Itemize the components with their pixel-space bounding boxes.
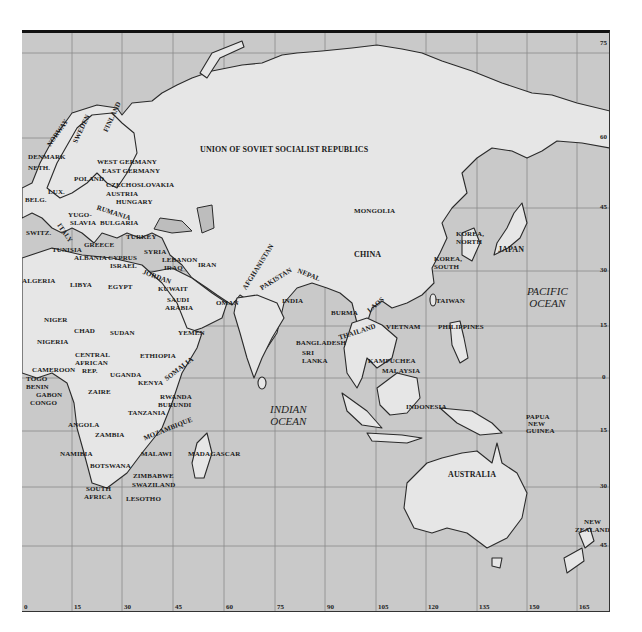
label-austria: AUSTRIA [106, 190, 138, 198]
lat-label-60n: 60 [600, 133, 607, 141]
label-madagascar: MADAGASCAR [188, 450, 240, 458]
label-tanzania: TANZANIA [128, 409, 166, 417]
label-car-3: REP. [82, 367, 98, 375]
lat-label-75n: 75 [600, 39, 607, 47]
label-poland: POLAND [74, 175, 104, 183]
lon-label-105: 105 [378, 603, 389, 611]
label-niger: NIGER [44, 316, 67, 324]
label-swaziland: SWAZILAND [132, 481, 175, 489]
label-australia: AUSTRALIA [448, 471, 496, 479]
label-uganda: UGANDA [110, 371, 141, 379]
lon-label-15: 15 [74, 603, 81, 611]
label-algeria: ALGERIA [22, 277, 55, 285]
label-egypt: EGYPT [108, 283, 133, 291]
label-lux: LUX. [48, 188, 65, 196]
lat-label-45n: 45 [600, 203, 607, 211]
label-nigeria: NIGERIA [37, 338, 68, 346]
label-congo: CONGO [30, 399, 57, 407]
label-bangladesh: BANGLADESH [296, 339, 346, 347]
label-burma: BURMA [331, 309, 358, 317]
label-iran: IRAN [198, 261, 216, 269]
label-syria: SYRIA [144, 248, 166, 256]
label-south-africa-2: AFRICA [84, 493, 112, 501]
label-yugoslavia-1: YUGO- [68, 211, 92, 219]
label-belg: BELG. [25, 196, 47, 204]
map-frame: 75 60 45 30 15 0 15 30 45 0 15 30 45 60 … [22, 30, 610, 612]
label-indonesia: INDONESIA [406, 403, 447, 411]
label-oman: OMAN [216, 299, 239, 307]
label-bulgaria: BULGARIA [100, 219, 139, 227]
lon-label-60: 60 [226, 603, 233, 611]
label-botswana: BOTSWANA [90, 462, 131, 470]
label-sri-lanka-2: LANKA [302, 357, 328, 365]
label-angola: ANGOLA [68, 421, 99, 429]
label-neth: NETH. [28, 164, 50, 172]
lat-label-15s: 15 [600, 426, 607, 434]
label-namibia: NAMIBIA [60, 450, 93, 458]
label-korea-south-1: KOREA, [434, 255, 462, 263]
label-korea-south-2: SOUTH [434, 263, 459, 271]
label-png-3: GUINEA [526, 427, 555, 435]
label-car-1: CENTRAL [75, 351, 110, 359]
label-yemen: YEMEN [178, 329, 205, 337]
lon-label-0: 0 [24, 603, 28, 611]
label-east-germany: EAST GERMANY [102, 167, 160, 175]
label-togo: TOGO [26, 375, 47, 383]
label-south-africa-1: SOUTH [86, 485, 111, 493]
label-cyprus: CYPRUS [108, 254, 137, 262]
label-lesotho: LESOTHO [126, 495, 161, 503]
lon-label-90: 90 [327, 603, 334, 611]
label-korea-north-2: NORTH [456, 238, 482, 246]
label-taiwan: TAIWAN [436, 297, 465, 305]
label-zimbabwe: ZIMBABWE [133, 472, 174, 480]
label-saudi-2: ARABIA [165, 304, 193, 312]
label-israel: ISRAEL [110, 262, 137, 270]
label-switz: SWITZ. [26, 229, 51, 237]
lat-label-30n: 30 [600, 266, 607, 274]
label-korea-north-1: KOREA, [456, 230, 484, 238]
label-sudan: SUDAN [110, 329, 135, 337]
label-kampuchea: KAMPUCHEA [368, 357, 416, 365]
label-greece: GREECE [84, 241, 114, 249]
label-lebanon: LEBANON [162, 256, 197, 264]
label-czechoslovakia: CZECHOSLOVAKIA [106, 181, 174, 189]
label-philippines: PHILIPPINES [438, 323, 484, 331]
label-hungary: HUNGARY [116, 198, 153, 206]
label-tunisia: TUNISIA [52, 246, 82, 254]
indian-ocean-label: INDIAN OCEAN [270, 403, 307, 427]
label-sri-lanka-1: SRI [302, 349, 314, 357]
label-yugoslavia-2: SLAVIA [70, 219, 96, 227]
lon-label-45: 45 [175, 603, 182, 611]
label-burundi: BURUNDI [158, 401, 191, 409]
label-japan: JAPAN [498, 246, 524, 254]
label-car-2: AFRICAN [75, 359, 108, 367]
lat-label-30s: 30 [600, 482, 607, 490]
lon-label-75: 75 [277, 603, 284, 611]
lat-label-15n: 15 [600, 321, 607, 329]
pacific-ocean-line1: PACIFIC [527, 285, 568, 297]
label-vietnam: VIETNAM [386, 323, 421, 331]
label-malawi: MALAWI [141, 450, 172, 458]
label-albania: ALBANIA [74, 254, 107, 262]
label-malaysia: MALAYSIA [382, 367, 420, 375]
label-benin: BENIN [26, 383, 49, 391]
lon-label-120: 120 [428, 603, 439, 611]
label-west-germany: WEST GERMANY [97, 158, 157, 166]
indian-ocean-line1: INDIAN [270, 403, 307, 415]
lon-label-30: 30 [124, 603, 131, 611]
indian-ocean-line2: OCEAN [270, 415, 307, 427]
label-mongolia: MONGOLIA [354, 207, 395, 215]
label-ethiopia: ETHIOPIA [140, 352, 176, 360]
label-kenya: KENYA [138, 379, 163, 387]
label-denmark: DENMARK [28, 153, 66, 161]
label-saudi-1: SAUDI [167, 296, 189, 304]
lon-label-165: 165 [579, 603, 590, 611]
label-turkey: TURKEY [126, 233, 157, 241]
label-zaire: ZAIRE [88, 388, 111, 396]
label-india: INDIA [282, 297, 303, 305]
label-kuwait: KUWAIT [158, 285, 188, 293]
label-gabon: GABON [36, 391, 62, 399]
label-ussr: UNION OF SOVIET SOCIALIST REPUBLICS [200, 146, 368, 154]
pacific-ocean-line2: OCEAN [527, 297, 568, 309]
label-china: CHINA [354, 251, 381, 259]
